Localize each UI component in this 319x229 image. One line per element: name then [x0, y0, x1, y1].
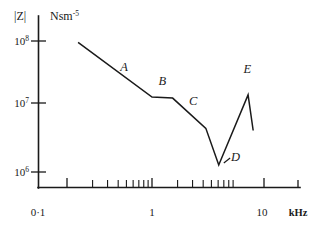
y-axis-unit: Nsm-5 — [50, 9, 79, 23]
x-tick-label-10: 10 — [257, 206, 269, 218]
impedance-curve — [78, 42, 253, 165]
data-series-group — [78, 42, 253, 165]
y-tick-label-1e7: 107 — [14, 96, 29, 109]
impedance-frequency-chart: 108 107 106 |Z| Nsm-5 0·1 1 10 kHz — [0, 0, 319, 229]
y-tick-label-1e8: 108 — [14, 34, 29, 47]
annotation-leader-d — [224, 158, 230, 163]
x-axis: 0·1 1 10 kHz — [31, 178, 308, 218]
region-label-b: B — [158, 74, 166, 88]
x-axis-unit: kHz — [289, 207, 308, 218]
x-tick-label-1: 1 — [149, 206, 155, 218]
region-label-c: C — [189, 94, 198, 108]
y-axis-tick-labels: 108 107 106 — [14, 34, 29, 178]
y-tick-label-1e6: 106 — [14, 165, 29, 178]
region-label-e: E — [242, 62, 251, 76]
y-axis-label: |Z| — [14, 9, 26, 23]
x-axis-tick-labels: 0·1 1 10 — [31, 206, 268, 218]
region-annotations: A B C D E — [119, 60, 251, 164]
chart-canvas: 108 107 106 |Z| Nsm-5 0·1 1 10 kHz — [0, 0, 319, 229]
region-label-a: A — [119, 60, 128, 74]
region-label-d: D — [230, 150, 240, 164]
x-tick-label-0-1: 0·1 — [31, 206, 46, 218]
y-axis: 108 107 106 |Z| Nsm-5 — [14, 9, 79, 188]
x-axis-major-ticks — [67, 178, 298, 188]
